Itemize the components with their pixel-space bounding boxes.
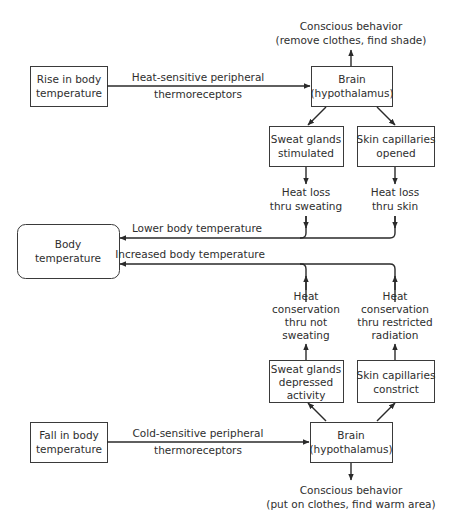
- top-conscious-behavior-label: Conscious behavior (remove clothes, find…: [276, 20, 427, 46]
- svg-text:Sweat glands: Sweat glands: [271, 363, 341, 375]
- svg-text:Brain: Brain: [338, 73, 366, 85]
- svg-text:thermoreceptors: thermoreceptors: [154, 444, 242, 456]
- svg-text:(put on clothes, find warm are: (put on clothes, find warm area): [266, 498, 435, 510]
- svg-text:Skin capillaries: Skin capillaries: [357, 369, 436, 381]
- svg-text:(remove clothes, find shade): (remove clothes, find shade): [276, 34, 427, 46]
- rise-in-body-temperature-box: Rise in body temperature: [31, 67, 108, 107]
- svg-text:Body: Body: [55, 238, 82, 250]
- svg-text:thermoreceptors: thermoreceptors: [154, 88, 242, 100]
- svg-text:Rise in body: Rise in body: [37, 73, 101, 85]
- svg-text:Fall in body: Fall in body: [39, 429, 99, 441]
- brain-hypothalamus-box-bottom: Brain (hypothalamus): [309, 423, 392, 463]
- svg-text:thru restricted: thru restricted: [357, 316, 432, 328]
- svg-text:Conscious behavior: Conscious behavior: [300, 484, 403, 496]
- heat-conservation-not-sweating-label: Heat conservation thru not sweating: [272, 290, 340, 341]
- heat-loss-sweating-label: Heat loss thru sweating: [270, 186, 342, 212]
- svg-text:thru skin: thru skin: [372, 200, 418, 212]
- skin-capillaries-opened-box: Skin capillaries opened: [357, 127, 436, 167]
- arrow-brain-to-skin-constrict: [377, 403, 395, 421]
- svg-text:Heat-sensitive peripheral: Heat-sensitive peripheral: [132, 71, 265, 83]
- svg-text:Brain: Brain: [337, 429, 365, 441]
- bottom-conscious-behavior-label: Conscious behavior (put on clothes, find…: [266, 484, 435, 510]
- svg-text:Heat: Heat: [383, 290, 408, 302]
- svg-text:Conscious behavior: Conscious behavior: [300, 20, 403, 32]
- arrow-brain-to-skin-capillaries: [377, 107, 395, 125]
- body-temperature-box: Body temperature: [18, 225, 120, 279]
- svg-text:thru not: thru not: [285, 316, 327, 328]
- svg-text:activity: activity: [287, 389, 326, 401]
- heat-loss-skin-label: Heat loss thru skin: [371, 186, 420, 212]
- sweat-glands-stimulated-box: Sweat glands stimulated: [270, 127, 344, 167]
- sweat-glands-depressed-box: Sweat glands depressed activity: [270, 361, 344, 403]
- skin-capillaries-constrict-box: Skin capillaries constrict: [357, 361, 436, 403]
- svg-text:temperature: temperature: [35, 252, 101, 264]
- svg-text:(hypothalamus): (hypothalamus): [309, 443, 392, 455]
- svg-text:(hypothalamus): (hypothalamus): [310, 87, 393, 99]
- svg-text:conservation: conservation: [361, 303, 429, 315]
- svg-text:temperature: temperature: [36, 443, 102, 455]
- svg-text:sweating: sweating: [282, 329, 329, 341]
- svg-text:depressed: depressed: [279, 376, 333, 388]
- heat-conservation-restricted-radiation-label: Heat conservation thru restricted radiat…: [357, 290, 432, 341]
- svg-text:Heat loss: Heat loss: [282, 186, 331, 198]
- svg-text:opened: opened: [376, 147, 415, 159]
- svg-text:Skin capillaries: Skin capillaries: [357, 133, 436, 145]
- svg-text:Heat loss: Heat loss: [371, 186, 420, 198]
- thermoregulation-diagram: Conscious behavior (remove clothes, find…: [0, 0, 458, 523]
- arrow-brain-to-sweat-depressed: [308, 403, 326, 421]
- increased-body-temperature-label: Increased body temperature: [115, 248, 265, 260]
- svg-text:Heat: Heat: [294, 290, 319, 302]
- brain-hypothalamus-box-top: Brain (hypothalamus): [310, 67, 393, 107]
- svg-text:Cold-sensitive peripheral: Cold-sensitive peripheral: [133, 427, 264, 439]
- line-heat-loss-skin-merge: [300, 216, 395, 238]
- svg-text:Sweat glands: Sweat glands: [271, 133, 341, 145]
- svg-text:constrict: constrict: [373, 383, 419, 395]
- lower-body-temperature-label: Lower body temperature: [132, 222, 262, 234]
- svg-text:stimulated: stimulated: [278, 147, 334, 159]
- svg-text:radiation: radiation: [372, 329, 419, 341]
- svg-text:thru sweating: thru sweating: [270, 200, 342, 212]
- arrow-brain-to-sweat-glands: [308, 107, 326, 125]
- svg-text:conservation: conservation: [272, 303, 340, 315]
- fall-in-body-temperature-box: Fall in body temperature: [31, 423, 108, 463]
- svg-text:temperature: temperature: [36, 87, 102, 99]
- arrow-increased-body-temperature: [120, 264, 306, 302]
